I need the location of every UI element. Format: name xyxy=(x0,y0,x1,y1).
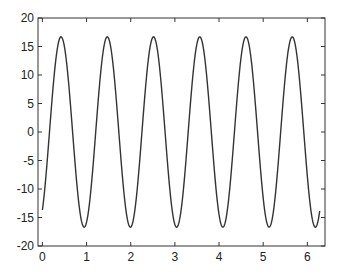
y-tick-label: 0 xyxy=(27,125,34,139)
y-axis: -20-15-10-505101520 xyxy=(17,11,325,253)
x-tick-label: 3 xyxy=(172,250,179,264)
x-tick-label: 2 xyxy=(127,250,134,264)
y-tick-label: 5 xyxy=(27,97,34,111)
y-tick-label: 20 xyxy=(21,11,35,25)
x-tick-label: 0 xyxy=(39,250,46,264)
x-tick-label: 4 xyxy=(216,250,223,264)
line-chart: -20-15-10-505101520 0123456 xyxy=(0,0,341,274)
x-tick-label: 5 xyxy=(260,250,267,264)
y-tick-label: -20 xyxy=(17,239,35,253)
data-line xyxy=(42,37,319,227)
y-tick-label: -15 xyxy=(17,211,35,225)
y-tick-label: -5 xyxy=(23,154,34,168)
y-tick-label: 15 xyxy=(21,40,35,54)
y-tick-label: 10 xyxy=(21,68,35,82)
x-tick-label: 1 xyxy=(83,250,90,264)
x-tick-label: 6 xyxy=(304,250,311,264)
y-tick-label: -10 xyxy=(17,182,35,196)
